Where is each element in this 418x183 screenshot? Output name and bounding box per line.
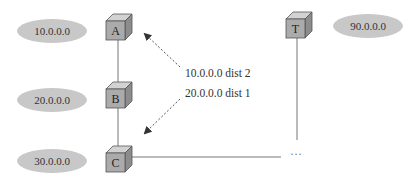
network-label: 30.0.0.0: [34, 155, 70, 167]
network-label: 90.0.0.0: [350, 20, 386, 32]
router-c: C: [106, 146, 132, 172]
network-30: 30.0.0.0: [17, 149, 87, 173]
network-diagram: ··· 10.0.0.0 20.0.0.0 30.0.0.0 90.0.0.0 …: [0, 0, 418, 183]
network-20: 20.0.0.0: [17, 88, 87, 112]
router-a: A: [106, 14, 132, 40]
arrow-to-c: [145, 99, 180, 133]
advertisement-line-1: 10.0.0.0 dist 2: [185, 67, 251, 79]
network-90: 90.0.0.0: [333, 14, 403, 38]
router-t: T: [286, 12, 312, 38]
router-label: A: [111, 24, 120, 38]
advertisement-line-2: 20.0.0.0 dist 1: [185, 87, 251, 99]
router-label: B: [111, 92, 119, 106]
network-label: 10.0.0.0: [34, 25, 70, 37]
router-label: C: [111, 156, 119, 170]
link-ellipsis: ···: [290, 147, 302, 161]
router-b: B: [106, 82, 132, 108]
network-10: 10.0.0.0: [17, 19, 87, 43]
arrow-to-a: [145, 34, 180, 67]
network-label: 20.0.0.0: [34, 94, 70, 106]
router-label: T: [292, 22, 300, 36]
